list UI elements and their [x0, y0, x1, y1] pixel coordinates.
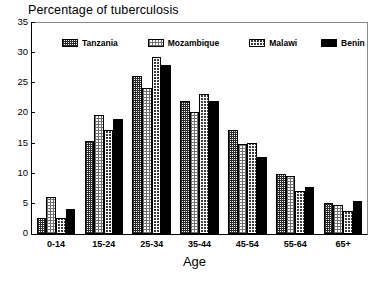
legend-label: Tanzania: [82, 39, 118, 48]
legend-label: Benin: [341, 39, 365, 48]
bar-group: [228, 23, 266, 234]
legend-item-malawi: Malawi: [249, 39, 297, 48]
x-tick-label: 45-54: [236, 239, 259, 249]
legend-item-benin: Benin: [321, 39, 365, 48]
y-tick-label: 10: [17, 168, 28, 178]
y-tick-label: 5: [23, 198, 28, 208]
bar: [66, 209, 76, 234]
y-tick-mark: [31, 52, 35, 53]
bar-group: [85, 23, 123, 234]
tuberculosis-bar-chart: Percentage of tuberculosis 0510152025303…: [0, 0, 389, 283]
legend-swatch-icon: [321, 39, 337, 47]
y-tick-mark: [31, 203, 35, 204]
x-tick-label: 55-64: [284, 239, 307, 249]
y-tick-mark: [31, 143, 35, 144]
bar: [228, 130, 238, 234]
bar-group: [180, 23, 218, 234]
y-tick-label: 15: [17, 138, 28, 148]
chart-legend: TanzaniaMozambiqueMalawiBenin: [62, 37, 365, 49]
y-tick-label: 0: [23, 228, 28, 238]
y-tick-label: 25: [17, 78, 28, 88]
legend-swatch-icon: [249, 39, 265, 47]
y-axis: 05101520253035: [0, 22, 28, 235]
bar-group: [324, 23, 362, 234]
x-axis: 0-1415-2425-3435-4445-5455-6465+: [32, 239, 367, 251]
bar: [257, 157, 267, 234]
y-tick-mark: [31, 82, 35, 83]
x-tick-label: 35-44: [188, 239, 211, 249]
x-tick-label: 0-14: [47, 239, 65, 249]
x-tick-label: 65+: [335, 239, 350, 249]
bar: [85, 141, 95, 234]
bar: [305, 187, 315, 234]
bar: [343, 211, 353, 234]
bar: [333, 205, 343, 234]
bar: [276, 174, 286, 234]
bar: [209, 101, 219, 234]
legend-swatch-icon: [62, 39, 78, 47]
x-tick-label: 25-34: [140, 239, 163, 249]
legend-swatch-icon: [148, 39, 164, 47]
bar: [132, 76, 142, 234]
y-tick-mark: [31, 22, 35, 23]
bar-group: [132, 23, 170, 234]
y-tick-label: 35: [17, 17, 28, 27]
bar: [152, 57, 162, 234]
bar: [286, 176, 296, 234]
bar: [238, 144, 248, 234]
bar: [142, 88, 152, 234]
bar: [94, 115, 104, 234]
bar: [190, 112, 200, 234]
legend-label: Mozambique: [168, 39, 219, 48]
bar-group: [37, 23, 75, 234]
bar: [46, 197, 56, 234]
bar: [37, 218, 47, 234]
bar: [199, 94, 209, 234]
bar-group: [276, 23, 314, 234]
bar: [161, 65, 171, 234]
bar: [324, 203, 334, 234]
chart-title: Percentage of tuberculosis: [28, 2, 179, 18]
bar: [104, 130, 114, 234]
bar: [56, 218, 66, 234]
bars-layer: [32, 23, 367, 234]
legend-label: Malawi: [269, 39, 297, 48]
y-tick-mark: [31, 112, 35, 113]
legend-item-tanzania: Tanzania: [62, 39, 118, 48]
x-tick-label: 15-24: [92, 239, 115, 249]
legend-item-mozambique: Mozambique: [148, 39, 219, 48]
y-tick-label: 20: [17, 108, 28, 118]
bar: [353, 201, 363, 234]
bar: [247, 143, 257, 234]
x-axis-title: Age: [0, 254, 389, 269]
y-tick-label: 30: [17, 47, 28, 57]
bar: [113, 119, 123, 234]
bar: [295, 191, 305, 234]
y-tick-mark: [31, 173, 35, 174]
bar: [180, 101, 190, 234]
